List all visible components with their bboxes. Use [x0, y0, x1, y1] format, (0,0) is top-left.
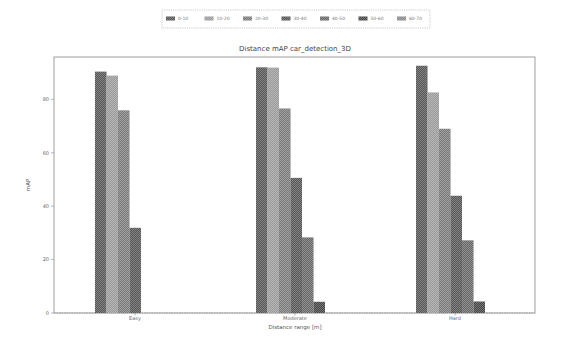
legend-swatch-texture	[359, 17, 368, 21]
legend-label: 60-70	[409, 16, 422, 21]
legend-label: 10-20	[217, 16, 230, 21]
y-tick-label: 60	[43, 150, 49, 156]
bar-texture	[268, 68, 280, 313]
x-tick-label: Hard	[449, 315, 461, 321]
x-tick-label: Easy	[129, 315, 141, 322]
bars	[95, 66, 485, 313]
bar-texture	[439, 129, 451, 313]
legend-label: 50-60	[371, 16, 384, 21]
x-axis-label: Distance range [m]	[268, 324, 321, 331]
x-tick-label: Moderate	[283, 315, 307, 321]
bar-texture	[130, 228, 142, 313]
bar-texture	[451, 196, 463, 313]
x-axis: EasyModerateHard	[129, 313, 461, 322]
y-axis: 020406080	[43, 96, 54, 316]
legend-label: 20-30	[255, 16, 268, 21]
legend-swatch-texture	[205, 17, 214, 21]
y-axis-label: mAP	[25, 178, 31, 191]
bar-texture	[107, 76, 119, 313]
bar-texture	[302, 237, 314, 313]
bar-texture	[462, 240, 474, 313]
legend-swatch-texture	[282, 17, 291, 21]
legend-label: 40-50	[332, 16, 345, 21]
bar-group-easy	[95, 72, 141, 313]
legend-swatch-texture	[243, 17, 252, 21]
bar-texture	[118, 110, 130, 313]
y-tick-label: 20	[43, 256, 49, 262]
bar-texture	[474, 302, 486, 313]
legend: 0-1010-2020-3030-4040-5050-6060-70	[162, 10, 430, 28]
legend-swatch-texture	[397, 17, 406, 21]
bar-group-hard	[416, 66, 485, 313]
bar-texture	[428, 92, 440, 313]
bar-texture	[256, 67, 268, 313]
y-tick-label: 80	[43, 96, 49, 102]
bar-texture	[291, 178, 303, 313]
bar-texture	[279, 108, 291, 313]
y-tick-label: 0	[46, 310, 49, 316]
legend-swatch-texture	[166, 17, 175, 21]
y-tick-label: 40	[43, 203, 49, 209]
legend-label: 30-40	[294, 16, 307, 21]
bar-chart: 0-1010-2020-3030-4040-5050-6060-70 Dista…	[0, 0, 565, 342]
bar-texture	[416, 66, 428, 313]
bar-group-moderate	[256, 67, 325, 313]
bar-texture	[95, 72, 107, 313]
legend-swatch-texture	[320, 17, 329, 21]
chart-title: Distance mAP car_detection_3D	[239, 45, 351, 53]
bar-texture	[314, 302, 326, 313]
legend-label: 0-10	[178, 16, 188, 21]
